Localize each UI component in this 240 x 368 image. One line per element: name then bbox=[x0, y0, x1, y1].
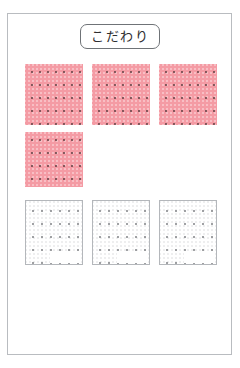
page-frame: こだわり bbox=[7, 13, 232, 355]
marker-dot-grid bbox=[92, 64, 150, 125]
fine-dot-texture bbox=[92, 64, 150, 125]
pink-swatch-1 bbox=[25, 64, 83, 125]
marker-dot-grid bbox=[159, 64, 217, 125]
fine-dot-texture bbox=[25, 132, 83, 187]
partial-row-mask bbox=[184, 252, 215, 263]
title-box: こだわり bbox=[80, 24, 160, 49]
fine-dot-texture bbox=[25, 64, 83, 125]
pink-swatch-2 bbox=[92, 64, 150, 125]
partial-row-mask bbox=[117, 252, 148, 263]
pink-swatch-4 bbox=[25, 132, 83, 187]
marker-dot-grid bbox=[25, 64, 83, 125]
page-title: こだわり bbox=[91, 30, 149, 43]
white-swatch-2 bbox=[92, 200, 150, 265]
pink-swatch-3 bbox=[159, 64, 217, 125]
partial-row-mask bbox=[50, 252, 81, 263]
fine-dot-texture bbox=[159, 64, 217, 125]
white-swatch-3 bbox=[159, 200, 217, 265]
white-swatch-1 bbox=[25, 200, 83, 265]
marker-dot-grid bbox=[25, 132, 83, 187]
